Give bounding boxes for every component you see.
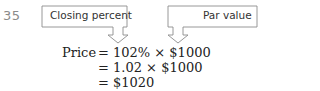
equation-line-3-rhs: = $1020 bbox=[98, 75, 154, 90]
equation-line-1-lhs: Price bbox=[62, 45, 96, 60]
equation-line-2-rhs: = 1.02 × $1000 bbox=[98, 60, 202, 75]
closing-percent-label: Closing percent bbox=[50, 9, 132, 21]
par-value-label: Par value bbox=[203, 9, 252, 21]
equation-line-1-rhs: = 102% × $1000 bbox=[98, 45, 211, 60]
